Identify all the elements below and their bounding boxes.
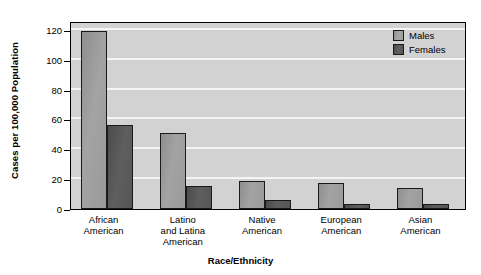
gridline: [71, 58, 465, 60]
legend-label-females: Females: [409, 45, 445, 55]
x-axis-label-line: American: [143, 236, 222, 247]
x-axis-label-line: American: [64, 225, 143, 236]
x-axis-label-line: Native: [222, 214, 301, 225]
x-axis-label-line: American: [302, 225, 381, 236]
gridline: [71, 117, 465, 119]
x-axis-label-0: AfricanAmerican: [64, 214, 143, 236]
bar-females-0: [107, 125, 133, 209]
x-axis-label-line: Asian: [381, 214, 460, 225]
bar-females-1: [186, 186, 212, 209]
x-axis-label-2: NativeAmerican: [222, 214, 301, 236]
legend-swatch-females: [393, 44, 404, 55]
bar-males-0: [81, 31, 107, 209]
x-axis-label-3: EuropeanAmerican: [302, 214, 381, 236]
bar-males-1: [160, 133, 186, 209]
legend-item-females: Females: [393, 44, 445, 55]
y-axis-tick-label: 80: [22, 86, 62, 96]
x-axis-label-line: and Latina: [143, 225, 222, 236]
x-axis-label-line: Latino: [143, 214, 222, 225]
y-axis-tick-label: 100: [22, 56, 62, 66]
bar-males-2: [239, 181, 265, 209]
y-axis-tick: [64, 210, 70, 211]
gridline: [71, 88, 465, 90]
bar-males-4: [397, 188, 423, 209]
y-axis-tick-label: 60: [22, 115, 62, 125]
bar-males-3: [318, 183, 344, 209]
x-axis-title: Race/Ethnicity: [0, 255, 481, 266]
y-axis-title: Cases per 100,000 Population: [9, 11, 20, 211]
x-axis-label-line: European: [302, 214, 381, 225]
x-axis-label-4: AsianAmerican: [381, 214, 460, 236]
x-axis-label-1: Latinoand LatinaAmerican: [143, 214, 222, 247]
legend-swatch-males: [393, 30, 404, 41]
y-axis-tick-label: 120: [22, 26, 62, 36]
y-axis-tick-label: 40: [22, 145, 62, 155]
bar-females-4: [423, 204, 449, 209]
legend: Males Females: [393, 30, 445, 58]
x-axis-label-line: African: [64, 214, 143, 225]
plot-area: Males Females: [70, 22, 466, 210]
x-axis-label-line: American: [381, 225, 460, 236]
bar-females-2: [265, 200, 291, 209]
x-axis-label-line: American: [222, 225, 301, 236]
legend-label-males: Males: [409, 31, 434, 41]
y-axis-tick-label: 0: [22, 205, 62, 215]
legend-item-males: Males: [393, 30, 445, 41]
bar-females-3: [344, 204, 370, 209]
bar-chart-figure: Cases per 100,000 Population 02040608010…: [0, 0, 481, 275]
y-axis-tick-label: 20: [22, 175, 62, 185]
